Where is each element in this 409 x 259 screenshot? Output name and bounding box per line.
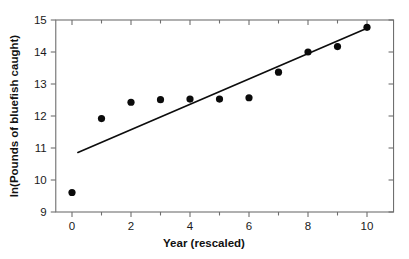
chart-figure: 0246810 9101112131415 Year (rescaled) ln… (0, 0, 409, 259)
y-tick-label: 15 (34, 14, 47, 26)
x-tick-label: 10 (361, 220, 374, 232)
y-tick-label: 13 (34, 78, 47, 90)
x-tick-label: 6 (246, 220, 252, 232)
x-tick-label: 0 (69, 220, 75, 232)
data-point (245, 94, 252, 101)
data-point (68, 189, 75, 196)
data-point (363, 24, 370, 31)
y-tick-label: 10 (34, 174, 47, 186)
data-point (216, 95, 223, 102)
data-point (127, 99, 134, 106)
y-tick-label: 9 (40, 206, 46, 218)
x-tick-label: 4 (187, 220, 194, 232)
y-axis-label: ln(Pounds of bluefish caught) (8, 35, 20, 197)
data-point (304, 48, 311, 55)
chart-background (0, 0, 409, 259)
data-point (334, 43, 341, 50)
x-axis-label: Year (rescaled) (163, 237, 245, 249)
data-point (98, 115, 105, 122)
data-point (186, 95, 193, 102)
y-tick-label: 12 (34, 110, 47, 122)
y-tick-label: 11 (35, 142, 47, 154)
data-point (157, 96, 164, 103)
x-tick-label: 2 (128, 220, 134, 232)
scatter-plot: 0246810 9101112131415 Year (rescaled) ln… (0, 0, 409, 259)
y-tick-label: 14 (34, 46, 47, 58)
data-point (275, 69, 282, 76)
x-tick-label: 8 (305, 220, 311, 232)
